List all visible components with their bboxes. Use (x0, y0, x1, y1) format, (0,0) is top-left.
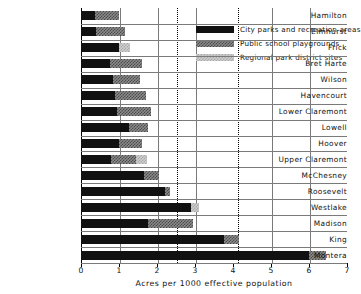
x-axis-title: Acres per 1000 effective population (81, 279, 347, 288)
bar-lower-claremont (81, 107, 151, 116)
y-tick-label: McChesney (268, 171, 347, 180)
x-axis: 01234567 (81, 263, 347, 275)
bar-segment (81, 187, 165, 196)
y-tick-label: Madison (268, 219, 347, 228)
row-rule (81, 24, 347, 25)
bar-segment (129, 123, 148, 132)
row-rule (81, 231, 347, 232)
bar-segment (81, 123, 129, 132)
bar-segment (81, 27, 96, 36)
bar-segment (119, 43, 130, 52)
bar-bret-harte (81, 59, 142, 68)
bar-segment (165, 187, 171, 196)
bar-segment (110, 59, 142, 68)
bar-segment (148, 219, 194, 228)
bar-segment (81, 43, 119, 52)
bar-segment (113, 75, 140, 84)
bar-hamilton (81, 11, 119, 20)
bar-segment (81, 11, 95, 20)
bar-wilson (81, 75, 140, 84)
row-rule (81, 88, 347, 89)
bar-segment (95, 11, 119, 20)
row-rule (81, 247, 347, 248)
row-rule (81, 72, 347, 73)
bar-segment (111, 155, 136, 164)
bar-segment (117, 107, 151, 116)
bar-segment (81, 171, 144, 180)
x-tick-label: 2 (154, 266, 159, 275)
row-rule (81, 167, 347, 168)
y-tick-label: Hoover (268, 139, 347, 148)
y-tick-label: Montera (268, 251, 347, 260)
legend-swatch (196, 26, 234, 34)
y-tick-label: Wilson (268, 75, 347, 84)
y-tick-label: Lowell (268, 123, 347, 132)
bar-segment (115, 91, 145, 100)
bar-segment (81, 75, 113, 84)
bar-lowell (81, 123, 148, 132)
row-rule (81, 183, 347, 184)
bar-segment (144, 171, 159, 180)
bar-king (81, 235, 239, 244)
x-tick-label: 6 (306, 266, 311, 275)
bar-elmhurst (81, 27, 125, 36)
y-tick-label: Bret Harte (268, 59, 347, 68)
y-tick-label: Havencourt (268, 91, 347, 100)
bar-segment (81, 59, 110, 68)
bar-madison (81, 219, 193, 228)
row-rule (81, 215, 347, 216)
bar-upper-claremont (81, 155, 147, 164)
bar-segment (81, 139, 119, 148)
y-tick-label: Westlake (268, 203, 347, 212)
y-tick-label: Hamilton (268, 11, 347, 20)
y-tick-label: King (268, 235, 347, 244)
y-tick-label: Upper Claremont (268, 155, 347, 164)
bar-hoover (81, 139, 142, 148)
x-tick-label: 1 (116, 266, 121, 275)
bar-segment (224, 235, 239, 244)
x-tick-label: 7 (344, 266, 349, 275)
bar-segment (191, 203, 199, 212)
row-rule (81, 40, 347, 41)
bar-westlake (81, 203, 199, 212)
bar-segment (81, 107, 117, 116)
bar-segment (81, 219, 148, 228)
y-tick-label: Frick (268, 43, 347, 52)
bar-segment (81, 91, 115, 100)
row-rule (81, 136, 347, 137)
row-rule (81, 199, 347, 200)
bar-segment (96, 27, 125, 36)
bar-segment (136, 155, 147, 164)
x-tick-label: 5 (268, 266, 273, 275)
bar-segment (81, 203, 191, 212)
y-tick-label: Lower Claremont (268, 107, 347, 116)
bar-roosevelt (81, 187, 170, 196)
bar-mcchesney (81, 171, 159, 180)
bar-segment (81, 155, 111, 164)
bar-frick (81, 43, 130, 52)
row-rule (81, 151, 347, 152)
y-tick-label: Elmhurst (268, 27, 347, 36)
x-tick-label: 0 (78, 266, 83, 275)
bar-segment (119, 139, 142, 148)
row-rule (81, 263, 347, 264)
y-tick-label: Roosevelt (268, 187, 347, 196)
bar-havencourt (81, 91, 146, 100)
bar-segment (81, 235, 224, 244)
row-rule (81, 56, 347, 57)
row-rule (81, 104, 347, 105)
x-tick-label: 4 (230, 266, 235, 275)
row-rule (81, 120, 347, 121)
legend-swatch (196, 40, 234, 48)
x-tick-label: 3 (192, 266, 197, 275)
